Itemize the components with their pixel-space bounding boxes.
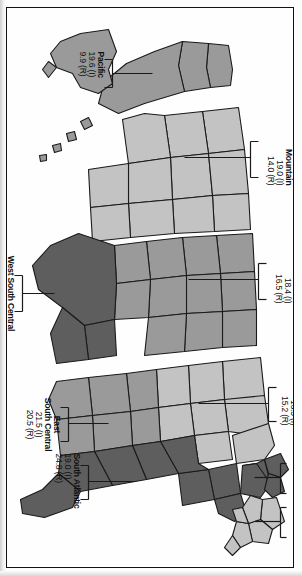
us-division-map	[6, 7, 294, 568]
label-east-south-central-value-r: 20.5 (R)	[24, 389, 33, 459]
label-mountain: Mountain 19.0 (I) 14.0 (R)	[266, 125, 292, 185]
label-pacific-value-r: 9.9 (R)	[78, 51, 87, 77]
division-shape-west-north-central	[114, 233, 256, 355]
label-south-atlantic-name: South Atlantic	[71, 453, 80, 508]
label-south-atlantic-value-i: 19.0 (I)	[62, 453, 71, 508]
rotated-map-group: Pacific 19.6 (I) 9.9 (R) Mountain 19.0 (…	[6, 7, 294, 568]
division-shape-west-south-central	[32, 233, 116, 363]
label-west-north-central-value-r: 16.5 (R)	[274, 223, 283, 303]
label-pacific-name: Pacific	[95, 51, 104, 77]
label-mountain-name: Mountain	[283, 125, 292, 185]
label-west-north-central-value-i: 18.4 (I)	[282, 223, 291, 303]
scan-bottom-shadow	[0, 571, 302, 576]
label-west-south-central-name: West South Central	[6, 245, 14, 341]
label-pacific: Pacific 19.6 (I) 9.9 (R)	[78, 51, 104, 77]
label-east-south-central-value-i: 21.5 (I)	[33, 389, 42, 459]
label-west-north-central: West North Central 18.4 (I) 16.5 (R)	[274, 223, 294, 303]
label-east-north-central: East North Central 16.5 (I) 15.2 (R)	[280, 345, 294, 425]
figure-page: Pacific 19.6 (I) 9.9 (R) Mountain 19.0 (…	[0, 0, 302, 576]
label-pacific-value-i: 19.6 (I)	[86, 51, 95, 77]
label-west-south-central: West South Central 19.6 (I) 18.7 (R)	[6, 245, 14, 341]
label-mountain-value-r: 14.0 (R)	[266, 125, 275, 185]
label-east-north-central-value-r: 15.2 (R)	[280, 345, 289, 425]
map-canvas: Pacific 19.6 (I) 9.9 (R) Mountain 19.0 (…	[6, 7, 294, 568]
label-east-south-central: East South Central 21.5 (I) 20.5 (R)	[24, 389, 60, 459]
label-south-atlantic: South Atlantic 19.0 (I) 24.8 (R)	[54, 453, 80, 508]
label-mountain-value-i: 19.0 (I)	[274, 125, 283, 185]
label-south-atlantic-value-r: 24.8 (R)	[54, 453, 63, 508]
division-shape-mountain	[88, 107, 250, 241]
